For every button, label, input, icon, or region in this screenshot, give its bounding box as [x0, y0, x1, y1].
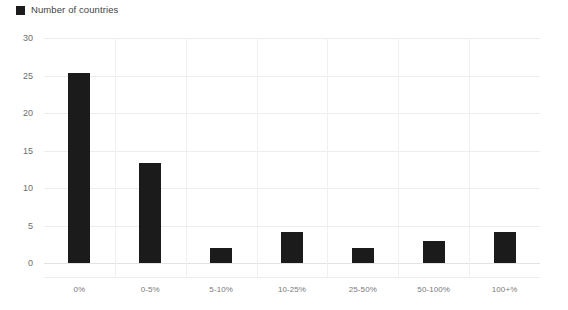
x-axis-tick: [469, 263, 470, 277]
x-axis-tick: [327, 263, 328, 277]
x-axis-tick: [115, 263, 116, 277]
bar[interactable]: [494, 232, 516, 264]
y-axis-tick-label: 10: [23, 184, 33, 193]
y-axis-tick-label: 30: [23, 34, 33, 43]
y-axis-tick-label: 0: [28, 259, 33, 268]
legend-label: Number of countries: [31, 5, 118, 15]
x-axis-tick-label: 10-25%: [278, 285, 306, 295]
bar[interactable]: [139, 163, 161, 264]
bar[interactable]: [68, 73, 90, 264]
y-axis-tick-label: 25: [23, 71, 33, 80]
x-axis-tick: [186, 263, 187, 277]
y-axis-tick-label: 5: [28, 221, 33, 230]
x-axis-tick-label: 5-10%: [209, 285, 233, 295]
x-axis-tick-label: 100+%: [492, 285, 518, 295]
x-axis-ticks: [44, 263, 540, 277]
x-axis-tick-label: 0-5%: [141, 285, 160, 295]
x-axis-tick-label: 50-100%: [417, 285, 450, 295]
bar[interactable]: [281, 232, 303, 264]
y-axis-tick-label: 20: [23, 109, 33, 118]
bar[interactable]: [423, 241, 445, 264]
bar-series: [44, 38, 540, 263]
bar-chart: Number of countries 051015202530 0%0-5%5…: [0, 0, 568, 310]
x-axis-tick: [257, 263, 258, 277]
x-axis-tick-label: 0%: [74, 285, 86, 295]
y-axis-tick-label: 15: [23, 146, 33, 155]
chart-legend: Number of countries: [16, 3, 118, 17]
x-axis-tick-label: 25-50%: [349, 285, 377, 295]
bar[interactable]: [352, 248, 374, 263]
bar[interactable]: [210, 248, 232, 263]
legend-square-icon: [16, 6, 25, 15]
y-axis-labels: 051015202530: [0, 38, 40, 263]
x-axis-labels: 0%0-5%5-10%10-25%25-50%50-100%100+%: [44, 285, 540, 299]
x-axis-tick: [398, 263, 399, 277]
